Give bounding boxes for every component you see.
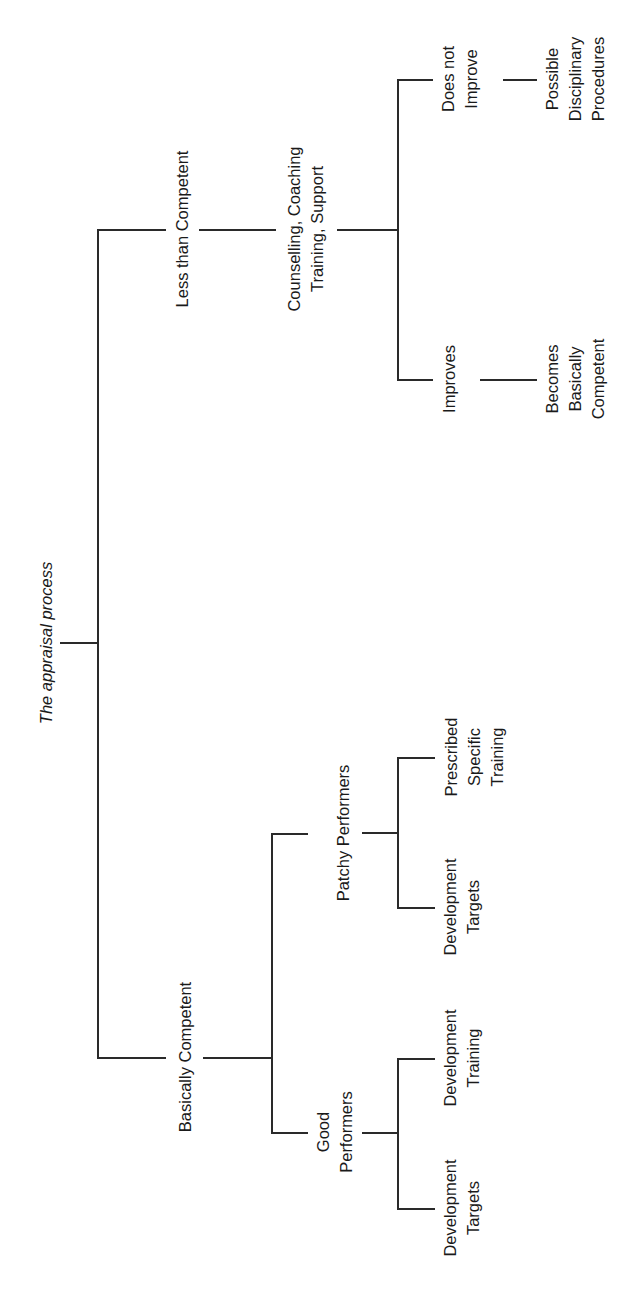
connector-basically-competent — [97, 1057, 166, 1059]
connector-patchy-performers — [271, 833, 308, 835]
connector-to-becomes-competent — [480, 379, 537, 381]
connector-counselling-out — [337, 229, 399, 231]
node-prescribed-specific-training: Prescribed Specific Training — [440, 718, 509, 797]
connector-does-not-improve — [397, 79, 433, 81]
node-improves: Improves — [438, 345, 461, 413]
node-good-performers: Good Performers — [312, 1091, 358, 1173]
connector-good-development-training — [397, 1058, 435, 1060]
node-good-development-training: Development Training — [439, 1009, 485, 1106]
vertical-connector-good — [397, 1058, 399, 1209]
connector-prescribed-training — [397, 757, 435, 759]
connector-basically-competent-out — [203, 1057, 272, 1059]
node-possible-disciplinary-procedures: Possible Disciplinary Procedures — [541, 37, 610, 121]
connector-to-counselling — [199, 229, 276, 231]
vertical-connector-outcomes — [397, 79, 399, 380]
node-basically-competent: Basically Competent — [174, 982, 197, 1132]
connector-good-out — [362, 1132, 398, 1134]
vertical-connector-performers — [271, 833, 273, 1133]
connector-to-disciplinary — [503, 79, 537, 81]
root-label: The appraisal process — [35, 562, 58, 724]
node-less-than-competent: Less than Competent — [171, 151, 194, 308]
connector-good-performers — [271, 1132, 308, 1134]
connector-patchy-out — [362, 832, 398, 834]
node-does-not-improve: Does not Improve — [437, 46, 483, 112]
node-counselling-coaching: Counselling, Coaching Training, Support — [283, 146, 329, 311]
node-good-development-targets: Development Targets — [439, 1159, 485, 1256]
node-patchy-development-targets: Development Targets — [439, 858, 485, 955]
node-becomes-basically-competent: Becomes Basically Competent — [541, 339, 610, 420]
root-stub-line — [60, 642, 98, 644]
root-vertical-connector — [97, 229, 99, 1058]
connector-good-development-targets — [397, 1208, 435, 1210]
vertical-connector-patchy — [397, 757, 399, 908]
node-patchy-performers: Patchy Performers — [332, 765, 355, 902]
connector-less-than-competent — [97, 229, 166, 231]
connector-patchy-development-targets — [397, 907, 435, 909]
connector-improves — [397, 379, 433, 381]
appraisal-tree-diagram: The appraisal process Less than Competen… — [0, 0, 624, 1305]
